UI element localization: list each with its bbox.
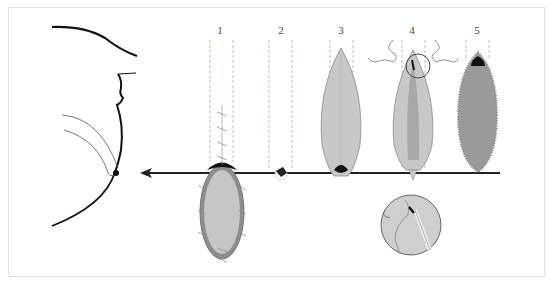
face-profile — [52, 27, 137, 226]
step-2-illustration — [275, 167, 287, 180]
arrow-icon — [140, 168, 500, 178]
step-5-illustration — [458, 52, 497, 172]
step-3-illustration — [321, 48, 361, 176]
diagram-canvas — [0, 0, 551, 284]
target-point-icon — [113, 170, 119, 176]
step-1-illustration — [198, 105, 246, 262]
step-4-illustration — [368, 40, 458, 180]
magnified-inset — [381, 195, 441, 255]
